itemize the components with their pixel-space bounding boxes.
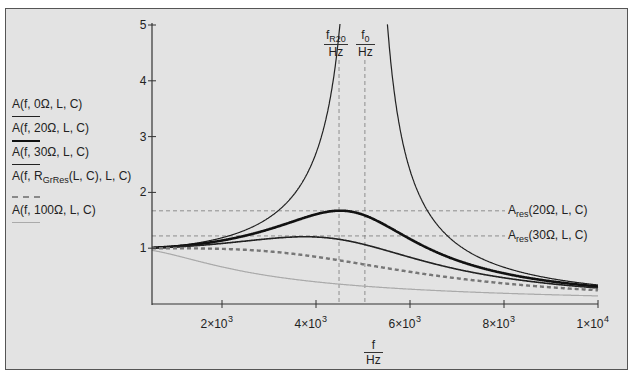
x-tick-label: 2×10 (200, 317, 227, 331)
label-ares-30ohm: Ares(30Ω, L, C) (508, 228, 588, 244)
x-tick-label: 8×10 (482, 317, 509, 331)
y-tick-label: 2 (140, 185, 147, 199)
legend-item-0ohm: A(f, 0Ω, L, C) (12, 97, 82, 111)
legend-line-100ohm (12, 222, 40, 223)
legend-item-20ohm: A(f, 20Ω, L, C) (12, 121, 89, 135)
x-tick-exponent: 3 (322, 314, 327, 324)
y-tick-label: 4 (140, 74, 147, 88)
marker-f0: f0 Hz (356, 28, 375, 59)
x-tick-exponent: 3 (416, 314, 421, 324)
legend-item-100ohm: A(f, 100Ω, L, C) (12, 203, 96, 217)
marker-fR20: fR20 Hz (324, 28, 348, 59)
x-axis-label: f Hz (364, 338, 383, 367)
legend-line-30ohm (12, 164, 40, 165)
legend-line-20ohm (12, 140, 40, 142)
label-ares-20ohm: Ares(20Ω, L, C) (508, 203, 588, 219)
x-tick-label: 6×10 (388, 317, 415, 331)
y-tick-label: 5 (140, 18, 147, 32)
legend-line-grres (12, 196, 40, 198)
x-tick-exponent: 3 (228, 314, 233, 324)
series-curve-3 (152, 248, 598, 290)
series-curve-0 (387, 24, 598, 285)
x-tick-label: 4×10 (294, 317, 321, 331)
plot-area: 123452×1034×1036×1038×1031×104 (0, 0, 638, 383)
legend-item-30ohm: A(f, 30Ω, L, C) (12, 145, 89, 159)
x-tick-exponent: 4 (604, 314, 609, 324)
y-tick-label: 3 (140, 130, 147, 144)
legend-item-grres: A(f, RGrRes(L, C), L, C) (12, 169, 131, 185)
y-tick-label: 1 (140, 241, 147, 255)
series-curve-4 (152, 250, 598, 296)
x-tick-exponent: 3 (510, 314, 515, 324)
series-curve-2 (152, 237, 598, 288)
x-tick-label: 1×10 (576, 317, 603, 331)
legend-line-0ohm (12, 116, 40, 117)
